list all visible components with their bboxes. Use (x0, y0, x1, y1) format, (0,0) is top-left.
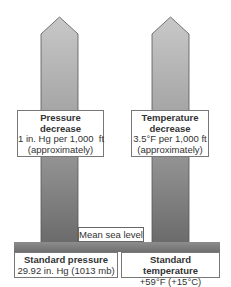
pressure-title-line1: Pressure (18, 113, 103, 124)
temperature-note: (approximately) (132, 145, 208, 156)
standard-temperature-box: Standard temperature +59°F (+15°C) (121, 252, 220, 278)
temperature-title-line1: Temperature (132, 113, 208, 124)
pressure-decrease-box: Pressure decrease 1 in. Hg per 1,000 ft … (17, 110, 104, 157)
temperature-rate: 3.5°F per 1,000 ft (132, 134, 208, 145)
pressure-rate: 1 in. Hg per 1,000 ft (18, 134, 103, 145)
standard-temperature-title: Standard temperature (122, 254, 219, 276)
standard-pressure-title: Standard pressure (15, 254, 117, 265)
standard-temperature-value: +59°F (+15°C) (122, 276, 219, 287)
temperature-decrease-box: Temperature decrease 3.5°F per 1,000 ft … (131, 110, 209, 157)
standard-pressure-value: 29.92 in. Hg (1013 mb) (15, 265, 117, 276)
standard-pressure-box: Standard pressure 29.92 in. Hg (1013 mb) (14, 252, 118, 278)
mean-sea-level-label: Mean sea level (78, 227, 144, 242)
pressure-note: (approximately) (18, 145, 103, 156)
ground-band (14, 242, 220, 252)
